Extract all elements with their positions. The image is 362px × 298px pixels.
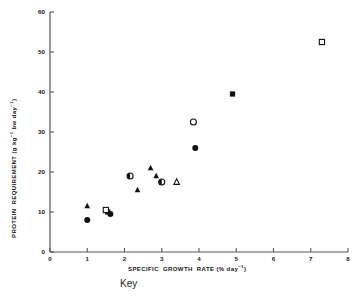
- y-axis-tick-label: 60: [38, 8, 45, 15]
- marker-open-square: [319, 39, 324, 44]
- data-point-filled-square: [230, 91, 235, 96]
- scatter-plot: 0102030405060012345678: [0, 0, 362, 298]
- data-point-filled-circle: [107, 211, 113, 217]
- data-point-half-filled-circle: [127, 173, 133, 179]
- marker-filled-triangle: [148, 165, 154, 171]
- data-point-half-filled-circle: [159, 179, 165, 185]
- x-axis-tick-label: 1: [86, 255, 90, 262]
- data-point-filled-circle: [192, 145, 198, 151]
- series-half-filled-circle: [127, 173, 165, 185]
- series-filled-circle: [84, 145, 198, 223]
- x-axis-tick-label: 7: [309, 255, 313, 262]
- marker-filled-triangle: [153, 173, 159, 179]
- marker-filled-circle: [192, 145, 198, 151]
- y-axis-tick-label: 30: [38, 128, 45, 135]
- data-point-filled-triangle: [153, 173, 159, 179]
- x-axis-tick-label: 2: [123, 255, 127, 262]
- marker-open-circle: [190, 119, 196, 125]
- series-cluster-extra: [107, 211, 113, 217]
- series-filled-square: [105, 91, 235, 214]
- marker-filled-circle: [84, 217, 90, 223]
- data-point-filled-triangle: [148, 165, 154, 171]
- marker-filled-circle: [107, 211, 113, 217]
- marker-filled-square: [230, 91, 235, 96]
- x-axis-tick-label: 3: [160, 255, 164, 262]
- marker-filled-triangle: [135, 187, 141, 193]
- marker-open-triangle: [174, 179, 180, 185]
- y-axis-tick-label: 20: [38, 168, 45, 175]
- x-axis-tick-label: 4: [197, 255, 201, 262]
- data-point-filled-circle: [84, 217, 90, 223]
- figure-container: PROTEIN REQUIREMENT (g kg−1 bw day−1) SP…: [0, 0, 362, 298]
- y-axis-tick-label: 40: [38, 88, 45, 95]
- x-axis-tick-label: 0: [48, 255, 52, 262]
- data-point-open-square: [319, 39, 324, 44]
- y-axis-tick-label: 50: [38, 48, 45, 55]
- data-point-open-triangle: [174, 179, 180, 185]
- data-point-open-circle: [190, 119, 196, 125]
- x-axis-tick-label: 6: [272, 255, 276, 262]
- series-open-circle: [190, 119, 196, 125]
- marker-filled-triangle: [84, 203, 90, 209]
- data-point-filled-triangle: [135, 187, 141, 193]
- x-axis-tick-label: 5: [235, 255, 239, 262]
- series-open-triangle: [174, 179, 180, 185]
- data-point-filled-triangle: [84, 203, 90, 209]
- x-axis-tick-label: 8: [346, 255, 350, 262]
- y-axis-tick-label: 0: [42, 248, 46, 255]
- series-open-square: [103, 39, 324, 212]
- series-filled-triangle: [84, 165, 159, 209]
- marker-open-square: [103, 207, 108, 212]
- data-point-open-square: [103, 207, 108, 212]
- y-axis-tick-label: 10: [38, 208, 45, 215]
